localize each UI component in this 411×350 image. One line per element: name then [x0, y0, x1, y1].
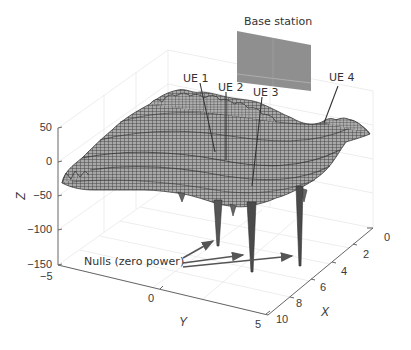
ue3-label: UE 3: [253, 86, 279, 99]
ue2-label: UE 2: [218, 81, 244, 94]
power-surface: [62, 90, 370, 216]
y-tick-5: 5: [255, 318, 261, 330]
base-station-panel: [237, 31, 311, 91]
base-station-label: Base station: [244, 15, 312, 28]
x-tick-8: 8: [296, 297, 302, 309]
surface-plot-figure: 50 0 −50 −100 −150 Z −5 0 5 Y 0 2 4 6 8 …: [0, 0, 411, 350]
y-axis-line: [58, 265, 268, 315]
null-spike-3: [296, 186, 303, 266]
x-tick-6: 6: [320, 281, 326, 293]
nulls-label: Nulls (zero power): [84, 255, 184, 268]
z-tick-minus150: −150: [12, 258, 52, 270]
ue1-label: UE 1: [183, 72, 209, 85]
x-tick-2: 2: [363, 248, 369, 260]
x-tick-0: 0: [384, 231, 390, 243]
z-axis-label: Z: [14, 192, 28, 199]
y-tick-minus5: −5: [40, 270, 53, 282]
z-tick-0: 0: [12, 155, 52, 167]
x-tick-4: 4: [341, 265, 347, 277]
null-spike-2: [247, 202, 256, 272]
x-tick-10: 10: [276, 313, 288, 325]
plot-canvas: [0, 0, 411, 350]
x-axis-label: X: [321, 305, 329, 319]
x-axis-line: [268, 228, 373, 315]
y-tick-0: 0: [148, 292, 154, 304]
ue4-label: UE 4: [329, 71, 355, 84]
y-axis-label: Y: [179, 315, 187, 329]
z-tick-minus100: −100: [12, 223, 52, 235]
z-tick-50: 50: [12, 121, 52, 133]
